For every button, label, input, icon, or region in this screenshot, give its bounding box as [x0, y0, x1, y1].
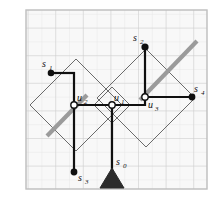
- label-s0-sub: 0: [123, 162, 127, 170]
- label-s0-base: s: [116, 156, 120, 167]
- label-s3-base: s: [78, 172, 82, 183]
- label-s4-base: s: [194, 83, 198, 94]
- label-s2-sub: 2: [140, 38, 144, 46]
- node-s3: [71, 169, 78, 176]
- label-u1-sub: 1: [121, 98, 125, 106]
- label-u3-sub: 3: [154, 105, 159, 113]
- label-s1-base: s: [42, 58, 46, 69]
- label-s4-sub: 4: [201, 89, 205, 97]
- label-u3-base: u: [148, 99, 153, 110]
- label-s3-sub: 3: [84, 178, 89, 186]
- node-s4: [189, 94, 196, 101]
- figure-canvas: s 1 s 2 s 3 s 4 u 1 u 2: [0, 0, 219, 199]
- geometry-figure: s 1 s 2 s 3 s 4 u 1 u 2: [0, 0, 219, 199]
- label-u2-base: u: [77, 92, 82, 103]
- label-s2-base: s: [133, 32, 137, 43]
- label-s1-sub: 1: [49, 64, 53, 72]
- label-u1-base: u: [114, 92, 119, 103]
- label-u2-sub: 2: [84, 98, 88, 106]
